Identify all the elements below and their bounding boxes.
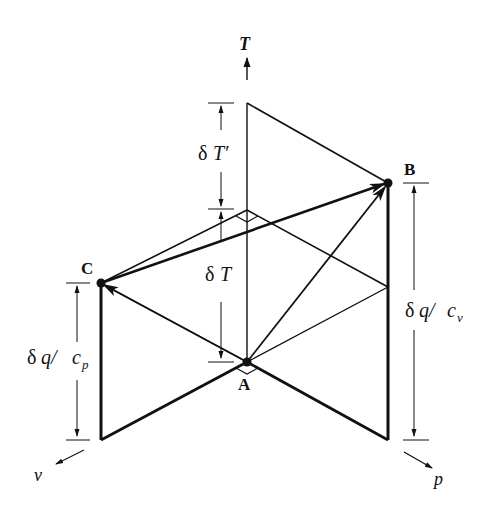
svg-text:q/: q/	[41, 346, 59, 369]
svg-text:δ: δ	[27, 346, 36, 368]
svg-text:T: T	[220, 263, 233, 285]
svg-text:c: c	[447, 299, 456, 321]
svg-text:δ: δ	[205, 263, 214, 285]
svg-text:v: v	[457, 310, 463, 325]
left-plane	[101, 210, 247, 440]
arrow-A-to-C	[104, 285, 247, 362]
point-C	[97, 279, 106, 288]
point-B	[384, 179, 393, 188]
svg-text:δ: δ	[405, 299, 414, 321]
point-label-B: B	[404, 160, 415, 179]
axis-label-v: v	[34, 465, 42, 485]
svg-text:δ: δ	[198, 142, 207, 164]
p-axis	[404, 452, 432, 468]
svg-text:p: p	[81, 357, 89, 372]
label-dq-cp: δ q/ c p	[27, 346, 89, 372]
v-axis	[56, 450, 84, 464]
thermo-diagram: T v p A B C δ T′ δ T δ q/ c v δ q/ c p	[0, 0, 495, 513]
point-A	[243, 358, 252, 367]
label-dT: δ T	[205, 263, 233, 285]
right-plane	[247, 183, 388, 440]
rear-plane	[247, 103, 388, 362]
axis-label-T: T	[239, 34, 251, 54]
dimension-dT	[208, 212, 234, 362]
base-lines	[101, 283, 388, 362]
right-angle-A	[236, 368, 258, 374]
label-dq-cv: δ q/ c v	[405, 299, 463, 325]
point-label-C: C	[81, 259, 93, 278]
svg-text:T′: T′	[213, 142, 229, 164]
svg-text:c: c	[72, 346, 81, 368]
axis-label-p: p	[432, 469, 443, 489]
process-arrows	[101, 184, 385, 362]
point-label-A: A	[238, 375, 251, 394]
svg-text:q/: q/	[419, 299, 437, 322]
label-dT-prime: δ T′	[198, 142, 229, 164]
arrow-C-to-B	[101, 184, 384, 283]
